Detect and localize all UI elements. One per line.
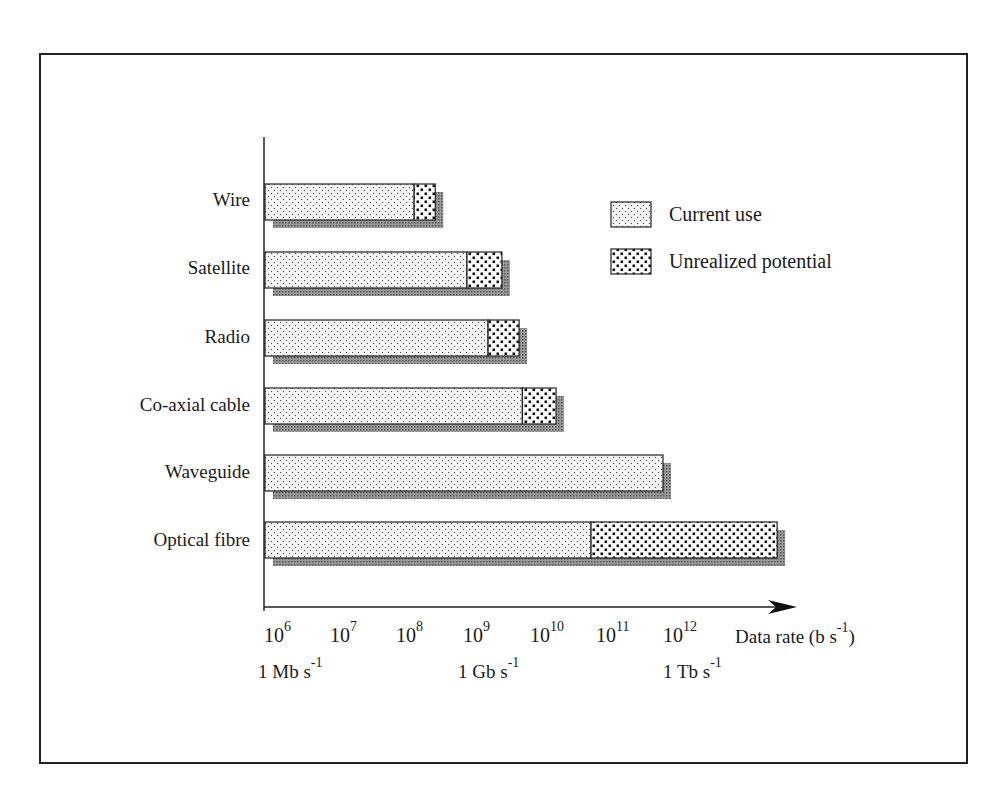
bar-unrealized-radio xyxy=(488,320,519,356)
x-tick-1e6: 106 xyxy=(264,624,291,647)
legend-swatch-unrealized xyxy=(611,249,651,274)
bar-unrealized-co-axial-cable xyxy=(522,388,556,424)
x-sublabel-gb: 1 Gb s-1 xyxy=(458,661,519,683)
x-tick-1e12: 1012 xyxy=(663,624,697,647)
x-tick-1e8: 108 xyxy=(396,624,423,647)
bars-group xyxy=(265,184,785,566)
legend-label-unrealized: Unrealized potential xyxy=(669,250,832,273)
x-tick-1e11: 1011 xyxy=(596,624,629,647)
bar-current-waveguide xyxy=(265,455,663,491)
category-label-optical-fibre: Optical fibre xyxy=(50,529,250,551)
x-tick-1e10: 1010 xyxy=(530,624,564,647)
category-label-waveguide: Waveguide xyxy=(50,461,250,483)
bar-current-co-axial-cable xyxy=(265,388,522,424)
legend-label-current: Current use xyxy=(669,203,762,226)
category-label-wire: Wire xyxy=(50,189,250,211)
bar-unrealized-optical-fibre xyxy=(591,522,777,558)
category-label-satellite: Satellite xyxy=(50,257,250,279)
bar-current-optical-fibre xyxy=(265,522,591,558)
category-label-radio: Radio xyxy=(50,326,250,348)
x-sublabel-mb: 1 Mb s-1 xyxy=(258,661,322,683)
bar-unrealized-satellite xyxy=(467,252,502,288)
bar-current-satellite xyxy=(265,252,467,288)
bar-unrealized-wire xyxy=(414,184,435,220)
bar-current-wire xyxy=(265,184,414,220)
x-axis-title: Data rate (b s-1) xyxy=(735,626,855,648)
bar-current-radio xyxy=(265,320,488,356)
legend-swatch-current xyxy=(611,202,651,227)
x-tick-1e9: 109 xyxy=(463,624,490,647)
x-sublabel-tb: 1 Tb s-1 xyxy=(663,661,722,683)
x-tick-1e7: 107 xyxy=(330,624,357,647)
category-label-coaxial: Co-axial cable xyxy=(50,394,250,416)
